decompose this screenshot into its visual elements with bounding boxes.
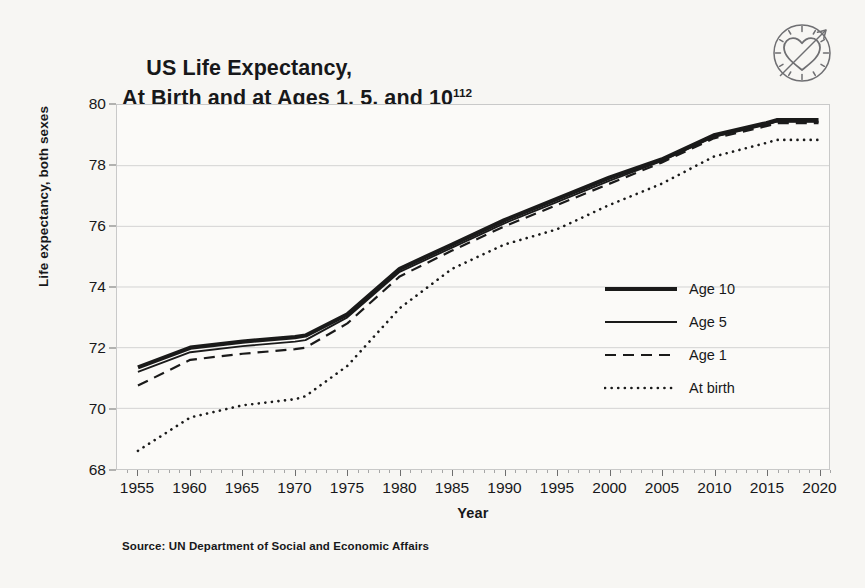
y-axis-tick-label: 68 (89, 461, 106, 479)
x-axis-minor-tick-mark (263, 470, 264, 473)
x-axis-tick-label: 1965 (225, 479, 259, 497)
x-axis-minor-tick-mark (326, 470, 327, 473)
x-axis-tick-label: 1970 (277, 479, 311, 497)
x-axis-minor-tick-mark (830, 470, 831, 473)
x-axis-tick-mark (347, 470, 348, 476)
y-axis-tick-label: 78 (89, 156, 106, 174)
x-axis-minor-tick-mark (431, 470, 432, 473)
x-axis-minor-tick-mark (211, 470, 212, 473)
x-axis-minor-tick-mark (463, 470, 464, 473)
x-axis-tick-mark (820, 470, 821, 476)
x-axis-minor-tick-mark (253, 470, 254, 473)
x-axis-minor-tick-mark (379, 470, 380, 473)
legend-swatch (604, 381, 678, 395)
x-axis-tick-mark (190, 470, 191, 476)
y-axis-tick-label: 80 (89, 95, 106, 113)
legend-label: Age 1 (689, 347, 727, 363)
x-axis-tick-mark (505, 470, 506, 476)
x-axis-minor-tick-mark (515, 470, 516, 473)
legend-label: Age 10 (689, 281, 735, 297)
y-axis-tick-label: 76 (89, 217, 106, 235)
chart-page: US Life Expectancy,At Birth and at Ages … (0, 0, 865, 588)
y-axis-tick-mark (109, 409, 116, 410)
x-axis-minor-tick-mark (778, 470, 779, 473)
y-axis-tick-label: 72 (89, 339, 106, 357)
x-axis-tick-label: 1955 (120, 479, 154, 497)
legend: Age 10Age 5Age 1At birth (604, 272, 794, 404)
x-axis-minor-tick-mark (127, 470, 128, 473)
source-note: Source: UN Department of Social and Econ… (122, 540, 429, 552)
y-axis-tick-mark (109, 470, 116, 471)
x-axis-tick-label: 2000 (592, 479, 626, 497)
x-axis-tick-mark (137, 470, 138, 476)
x-axis-tick-mark (557, 470, 558, 476)
x-axis-minor-tick-mark (284, 470, 285, 473)
x-axis-tick-label: 1995 (540, 479, 574, 497)
y-axis-tick-mark (109, 287, 116, 288)
x-axis-minor-tick-mark (809, 470, 810, 473)
x-axis-tick-mark (295, 470, 296, 476)
x-axis-minor-tick-mark (673, 470, 674, 473)
x-axis-minor-tick-mark (526, 470, 527, 473)
legend-item: At birth (604, 371, 794, 404)
x-axis-tick-label: 1990 (487, 479, 521, 497)
x-axis-minor-tick-mark (421, 470, 422, 473)
x-axis-minor-tick-mark (547, 470, 548, 473)
y-axis-tick-mark (109, 104, 116, 105)
legend-item: Age 10 (604, 272, 794, 305)
x-axis-minor-tick-mark (158, 470, 159, 473)
x-axis-minor-tick-mark (484, 470, 485, 473)
legend-label: Age 5 (689, 314, 727, 330)
x-axis-tick-label: 2020 (802, 479, 836, 497)
x-axis-minor-tick-mark (232, 470, 233, 473)
x-axis-minor-tick-mark (704, 470, 705, 473)
x-axis-tick-label: 1980 (382, 479, 416, 497)
x-axis-tick-mark (662, 470, 663, 476)
x-axis-tick-mark (242, 470, 243, 476)
y-axis-title: Life expectancy, both sexes (36, 106, 51, 287)
x-axis-minor-tick-mark (736, 470, 737, 473)
x-axis-minor-tick-mark (473, 470, 474, 473)
x-axis: 1955196019651970197519801985199019952000… (116, 470, 830, 471)
x-axis-minor-tick-mark (536, 470, 537, 473)
x-axis-tick-mark (452, 470, 453, 476)
y-axis-tick-label: 70 (89, 400, 106, 418)
x-axis-tick-mark (400, 470, 401, 476)
legend-swatch (604, 348, 678, 362)
x-axis-tick-mark (610, 470, 611, 476)
x-axis-tick-label: 1985 (435, 479, 469, 497)
x-axis-tick-label: 1975 (330, 479, 364, 497)
x-axis-minor-tick-mark (788, 470, 789, 473)
legend-label: At birth (689, 380, 735, 396)
x-axis-minor-tick-mark (631, 470, 632, 473)
x-axis-minor-tick-mark (368, 470, 369, 473)
legend-swatch (604, 282, 678, 296)
x-axis-minor-tick-mark (620, 470, 621, 473)
x-axis-tick-label: 2005 (645, 479, 679, 497)
x-axis-minor-tick-mark (200, 470, 201, 473)
x-axis-tick-mark (767, 470, 768, 476)
title-line-1: US Life Expectancy, (146, 56, 352, 80)
x-axis-minor-tick-mark (599, 470, 600, 473)
x-axis-minor-tick-mark (589, 470, 590, 473)
legend-item: Age 1 (604, 338, 794, 371)
y-axis-tick-mark (109, 348, 116, 349)
x-axis-minor-tick-mark (389, 470, 390, 473)
x-axis-minor-tick-mark (274, 470, 275, 473)
x-axis-tick-mark (715, 470, 716, 476)
x-axis-title: Year (116, 505, 830, 521)
x-axis-tick-label: 2010 (697, 479, 731, 497)
y-axis-tick-label: 74 (89, 278, 106, 296)
heart-clock-arrow-logo (765, 16, 839, 90)
x-axis-minor-tick-mark (358, 470, 359, 473)
title-footnote-ref: 112 (453, 86, 472, 100)
x-axis-minor-tick-mark (799, 470, 800, 473)
x-axis-minor-tick-mark (641, 470, 642, 473)
x-axis-minor-tick-mark (305, 470, 306, 473)
x-axis-minor-tick-mark (746, 470, 747, 473)
x-axis-minor-tick-mark (148, 470, 149, 473)
legend-item: Age 5 (604, 305, 794, 338)
x-axis-minor-tick-mark (221, 470, 222, 473)
x-axis-minor-tick-mark (316, 470, 317, 473)
x-axis-tick-label: 2015 (750, 479, 784, 497)
